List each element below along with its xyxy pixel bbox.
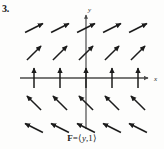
field-vector-arrow xyxy=(27,46,41,60)
field-vector-arrow xyxy=(105,46,119,60)
figure-page: 3. x y F=⟨y,1⟩ xyxy=(0,0,164,149)
field-vector-arrow xyxy=(103,24,121,33)
field-vector-arrow xyxy=(105,96,119,110)
figure-caption: F=⟨y,1⟩ xyxy=(0,133,164,143)
field-vector-arrow xyxy=(129,124,147,133)
field-vector-arrow xyxy=(25,24,43,33)
field-vector-arrow xyxy=(27,96,41,110)
field-vector-arrow xyxy=(51,24,69,33)
field-vector-arrow xyxy=(53,96,67,110)
field-vector-arrow xyxy=(103,124,121,133)
field-vector-arrow xyxy=(131,46,145,60)
y-axis-label: y xyxy=(87,6,92,14)
field-vector-arrow xyxy=(51,124,69,133)
x-axis-label: x xyxy=(153,75,158,83)
vector-field-plot: x y xyxy=(0,0,164,149)
caption-close-bracket: ⟩ xyxy=(93,133,97,143)
field-vector-arrow xyxy=(53,46,67,60)
field-vector-arrow xyxy=(129,24,147,33)
field-vector-arrow xyxy=(25,124,43,133)
field-vector-arrow xyxy=(131,96,145,110)
